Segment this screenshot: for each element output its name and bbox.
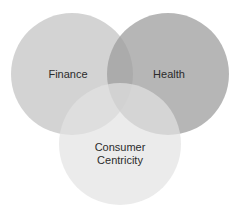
consumer-centricity-label-line2: Centricity bbox=[97, 154, 143, 166]
venn-diagram: Finance Health Consumer Centricity bbox=[0, 0, 240, 215]
consumer-centricity-label-line1: Consumer bbox=[95, 141, 146, 153]
finance-label: Finance bbox=[48, 68, 87, 80]
health-label: Health bbox=[153, 68, 185, 80]
